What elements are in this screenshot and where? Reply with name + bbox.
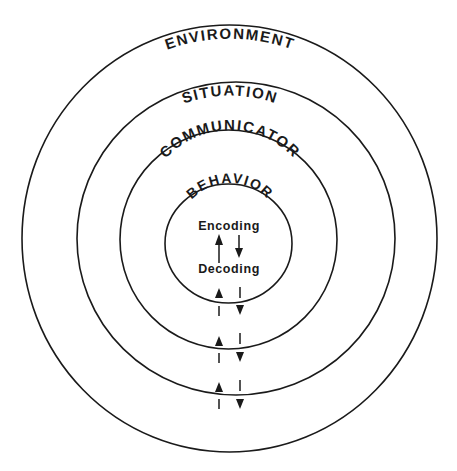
- core-down-arrow-icon: [235, 235, 243, 258]
- communication-model-diagram: ENVIRONMENT SITUATION COMMUNICATOR BEHAV…: [0, 0, 457, 471]
- label-decoding: Decoding: [198, 262, 260, 276]
- ring-communicator: [120, 130, 337, 349]
- label-communicator: COMMUNICATOR: [156, 116, 304, 161]
- label-environment: ENVIRONMENT: [163, 25, 298, 53]
- ring-behavior: [165, 184, 292, 303]
- up-arrow-icon: [215, 382, 223, 409]
- core-up-arrow-icon: [215, 234, 223, 263]
- label-behavior: BEHAVIOR: [183, 170, 277, 202]
- label-encoding: Encoding: [198, 219, 260, 233]
